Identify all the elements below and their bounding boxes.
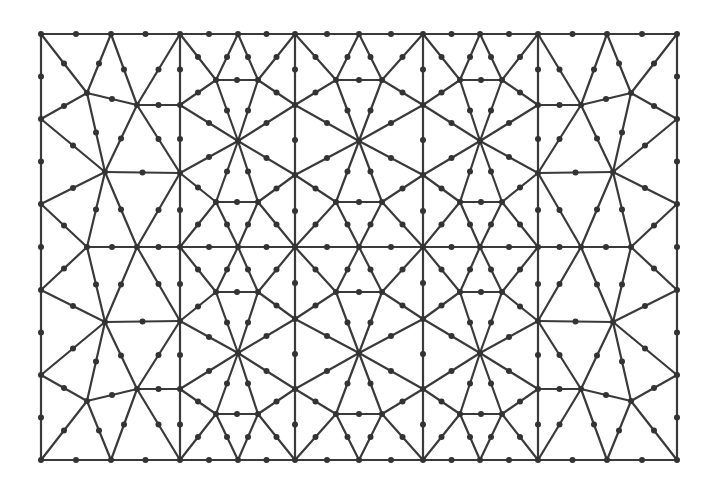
mesh-node: [292, 102, 298, 108]
mesh-node: [38, 74, 44, 80]
mesh-node: [570, 31, 576, 37]
mesh-node: [477, 138, 483, 144]
mesh-node: [96, 61, 102, 67]
mesh-node: [388, 31, 394, 37]
mesh-node: [674, 31, 680, 37]
mesh-node: [420, 280, 426, 286]
mesh-node: [642, 143, 648, 149]
mesh-node: [61, 103, 67, 109]
mesh-node: [506, 368, 512, 374]
mesh-node: [651, 385, 657, 391]
mesh-node: [449, 155, 455, 161]
mesh-node: [379, 77, 385, 83]
mesh-node: [594, 136, 600, 142]
mesh-node: [603, 244, 609, 250]
mesh-node: [651, 428, 657, 434]
mesh-node: [292, 457, 298, 463]
mesh-node: [118, 136, 124, 142]
mesh-node: [234, 289, 240, 295]
mesh-node: [177, 102, 183, 108]
mesh-node: [356, 289, 362, 295]
mesh-node: [467, 169, 473, 175]
mesh-node: [478, 411, 484, 417]
mesh-node: [642, 185, 648, 191]
mesh-node: [264, 120, 270, 126]
mesh-node: [517, 54, 523, 60]
mesh-node: [109, 392, 115, 398]
mesh-node: [604, 457, 610, 463]
mesh-node: [488, 381, 494, 387]
mesh-node: [245, 222, 251, 228]
mesh-node: [604, 31, 610, 37]
mesh-node: [506, 334, 512, 340]
mesh-node: [467, 267, 473, 273]
mesh-node: [619, 207, 625, 213]
mesh-node: [449, 120, 455, 126]
mesh-node: [619, 130, 625, 136]
mesh-node: [177, 67, 183, 73]
mesh-node: [639, 31, 645, 37]
mesh-node: [651, 61, 657, 67]
mesh-node: [213, 77, 219, 83]
mesh-node: [38, 287, 44, 293]
mesh-node: [449, 31, 455, 37]
mesh-node: [61, 223, 67, 229]
mesh-node: [345, 54, 351, 60]
mesh-node: [368, 169, 374, 175]
mesh-node: [274, 399, 280, 405]
mesh-node: [156, 281, 162, 287]
mesh-node: [324, 120, 330, 126]
mesh-node: [603, 96, 609, 102]
mesh-node: [38, 372, 44, 378]
mesh-node: [177, 281, 183, 287]
mesh-node: [84, 244, 90, 250]
mesh-node: [255, 77, 261, 83]
mesh-node: [535, 457, 541, 463]
mesh-node: [674, 372, 680, 378]
mesh-node: [195, 222, 201, 228]
mesh-node: [368, 54, 374, 60]
mesh-node: [478, 77, 484, 83]
mesh-node: [642, 346, 648, 352]
mesh-node: [457, 411, 463, 417]
mesh-node: [674, 244, 680, 250]
mesh-node: [477, 244, 483, 250]
mesh-node: [356, 457, 362, 463]
mesh-node: [38, 201, 44, 207]
mesh-node: [274, 222, 280, 228]
mesh-node: [591, 422, 597, 428]
mesh-node: [70, 346, 76, 352]
mesh-node: [224, 54, 230, 60]
mesh-node: [356, 199, 362, 205]
mesh-node: [356, 350, 362, 356]
mesh-node: [557, 352, 563, 358]
mesh-node: [594, 353, 600, 359]
mesh-node: [488, 54, 494, 60]
mesh-node: [102, 169, 108, 175]
mesh-node: [639, 457, 645, 463]
mesh-node: [245, 108, 251, 114]
mesh-node: [324, 333, 330, 339]
mesh-node: [134, 102, 140, 108]
mesh-node: [255, 199, 261, 205]
mesh-node: [274, 90, 280, 96]
mesh-node: [499, 411, 505, 417]
mesh-node: [488, 222, 494, 228]
mesh-node: [245, 267, 251, 273]
mesh-node: [628, 90, 634, 96]
mesh-node: [61, 61, 67, 67]
mesh-node: [292, 137, 298, 143]
mesh-node: [206, 334, 212, 340]
mesh-node: [400, 186, 406, 192]
mesh-node: [517, 185, 523, 191]
mesh-node: [457, 199, 463, 205]
mesh-node: [619, 282, 625, 288]
mesh-node: [388, 155, 394, 161]
mesh-node: [156, 352, 162, 358]
mesh-node: [674, 159, 680, 165]
mesh-node: [313, 399, 319, 405]
mesh-node: [345, 169, 351, 175]
mesh-node: [274, 186, 280, 192]
mesh-node: [488, 108, 494, 114]
mesh-node: [61, 266, 67, 272]
